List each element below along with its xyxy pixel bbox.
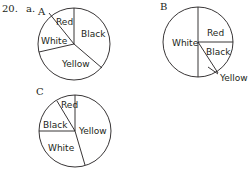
pie-c-label-red: Red bbox=[61, 100, 78, 110]
pie-a-label-red: Red bbox=[56, 17, 73, 27]
pie-c-label-yellow: Yellow bbox=[78, 126, 107, 136]
pie-a-label-white: White bbox=[41, 36, 68, 46]
pie-a-label-black: Black bbox=[81, 29, 106, 39]
pie-b-label-red: Red bbox=[207, 28, 224, 38]
pie-b-label-yellow: Yellow bbox=[219, 73, 248, 83]
pie-c-label-black: Black bbox=[43, 120, 68, 130]
pie-charts: Black Yellow White Red Red Black White Y… bbox=[0, 0, 250, 169]
pie-b-label-black: Black bbox=[206, 47, 231, 57]
pie-a-label-yellow: Yellow bbox=[61, 59, 90, 69]
pie-b-label-white: White bbox=[172, 38, 199, 48]
pie-c-label-white: White bbox=[48, 143, 75, 153]
